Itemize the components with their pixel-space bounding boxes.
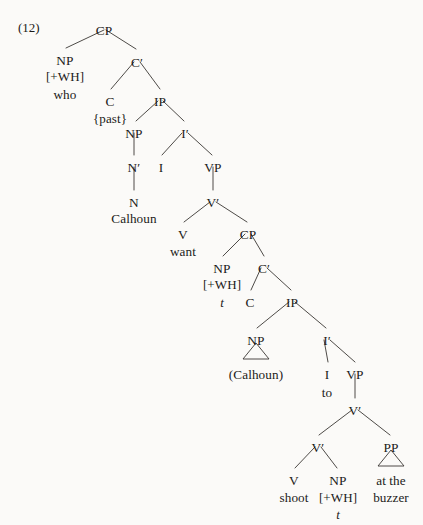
node-c1: C: [105, 95, 114, 108]
node-i2: I: [325, 368, 330, 381]
node-np2: NP: [125, 127, 142, 140]
node-i1: I: [159, 161, 164, 174]
node-i2_word: to: [322, 386, 332, 399]
node-v2: V: [289, 474, 299, 487]
branch-ibar2-vp2: [330, 340, 355, 362]
node-vbar1: V′: [207, 196, 220, 209]
node-np1_word: who: [53, 88, 76, 101]
branch-ip2-np4: [257, 302, 289, 328]
branch-ibar1-i1: [162, 133, 182, 155]
node-ip1: IP: [154, 95, 166, 108]
node-np5: NP: [329, 474, 346, 487]
node-pp1: PP: [383, 441, 398, 454]
node-np1_feat: [+WH]: [46, 70, 84, 83]
node-c1_word: {past}: [93, 112, 127, 125]
branch-cbar2-ip2: [267, 268, 291, 290]
node-cp2: CP: [240, 228, 257, 241]
node-n1: N: [129, 196, 139, 209]
node-v1: V: [178, 228, 188, 241]
node-cp1: CP: [96, 24, 113, 37]
node-cbar2: C′: [258, 262, 270, 275]
node-n1_word: Calhoun: [111, 212, 156, 225]
node-vp2: VP: [346, 368, 363, 381]
node-nbar1: N′: [128, 161, 141, 174]
example-number: (12): [18, 20, 40, 36]
node-np3_trace: t: [220, 296, 224, 309]
node-pp1_w1: at the: [376, 474, 406, 487]
node-np1: NP: [56, 54, 73, 67]
node-vbar2: V′: [349, 404, 362, 417]
node-vbar3: V′: [312, 441, 325, 454]
syntax-tree-figure: (12) CPNP[+WH]whoC′C{past}IPNPN′NCalhoun…: [0, 0, 423, 525]
branch-vbar2-vbar3: [319, 410, 352, 435]
node-c2: C: [245, 296, 254, 309]
node-ip2: IP: [286, 296, 298, 309]
node-np4: NP: [247, 334, 264, 347]
branch-vbar1-cp2: [216, 202, 247, 222]
node-np5_feat: [+WH]: [319, 491, 357, 504]
node-ibar1: I′: [181, 127, 189, 140]
node-vp1: VP: [204, 161, 221, 174]
node-np3: NP: [213, 262, 230, 275]
branch-ip1-ibar1: [163, 101, 184, 121]
branch-group: [66, 30, 390, 468]
node-ibar2: I′: [323, 334, 331, 347]
node-cbar1: C′: [131, 56, 143, 69]
node-v2_word: shoot: [279, 491, 308, 504]
node-pp1_w2: buzzer: [373, 491, 409, 504]
node-v1_word: want: [170, 245, 196, 258]
branch-vbar2-pp1: [358, 410, 390, 435]
branch-ibar1-vp1: [188, 133, 212, 155]
node-np3_feat: [+WH]: [203, 278, 241, 291]
node-np4_word: (Calhoun): [229, 368, 283, 381]
node-np5_trace: t: [336, 508, 340, 521]
branch-ip2-ibar2: [295, 302, 326, 328]
